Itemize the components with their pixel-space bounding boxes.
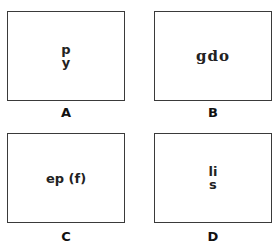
- panel-a: p y: [7, 11, 125, 101]
- panel-c: ep (f): [7, 133, 125, 223]
- panel-a-content: p y: [61, 43, 70, 69]
- panel-c-line-1: ep (f): [46, 172, 86, 185]
- panel-d-line-2: s: [209, 178, 218, 191]
- panel-b-content: gdo: [196, 50, 230, 63]
- panel-b-line-1: gdo: [196, 50, 230, 63]
- panel-c-content: ep (f): [46, 172, 86, 185]
- panel-a-line-2: y: [61, 56, 70, 69]
- panel-d-label: D: [154, 229, 272, 244]
- panel-a-label: A: [7, 105, 125, 120]
- panel-b-label: B: [154, 105, 272, 120]
- panel-d: li s: [154, 133, 272, 223]
- panel-b: gdo: [154, 11, 272, 101]
- panel-c-label: C: [7, 229, 125, 244]
- panel-d-content: li s: [209, 165, 218, 191]
